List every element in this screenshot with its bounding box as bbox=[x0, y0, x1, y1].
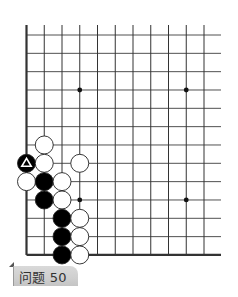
white-stone[interactable] bbox=[71, 154, 89, 172]
white-stone[interactable] bbox=[53, 191, 71, 209]
hoshi-point bbox=[77, 198, 82, 203]
hoshi-point bbox=[184, 88, 189, 93]
black-stone[interactable] bbox=[53, 209, 71, 227]
white-stone[interactable] bbox=[71, 246, 89, 264]
problem-label: 问题 50 bbox=[13, 266, 78, 286]
black-stone[interactable] bbox=[35, 191, 53, 209]
go-board[interactable] bbox=[0, 0, 238, 297]
white-stone[interactable] bbox=[18, 173, 36, 191]
problem-label-text: 问题 50 bbox=[19, 267, 67, 286]
black-stone[interactable] bbox=[53, 246, 71, 264]
white-stone[interactable] bbox=[71, 228, 89, 246]
black-stone[interactable] bbox=[53, 228, 71, 246]
white-stone[interactable] bbox=[71, 209, 89, 227]
white-stone[interactable] bbox=[35, 136, 53, 154]
black-stone[interactable] bbox=[18, 154, 36, 172]
black-stone[interactable] bbox=[35, 173, 53, 191]
white-stone[interactable] bbox=[53, 173, 71, 191]
hoshi-point bbox=[184, 198, 189, 203]
hoshi-point bbox=[77, 88, 82, 93]
white-stone[interactable] bbox=[35, 154, 53, 172]
